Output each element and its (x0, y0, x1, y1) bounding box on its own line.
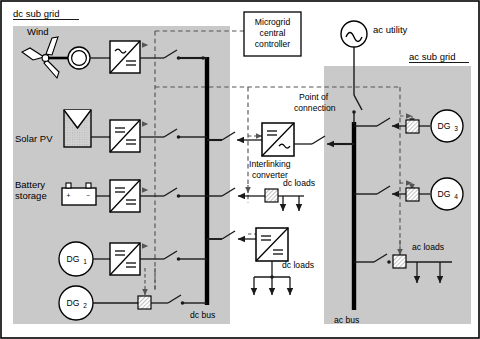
dg2-meter-box[interactable] (138, 296, 151, 309)
dg3-meter-box[interactable] (406, 120, 419, 133)
ac-loads-label: ac loads (412, 242, 444, 252)
battery-label-line1: Battery (15, 179, 45, 190)
dg2-label: DG (67, 298, 80, 308)
svg-text:dc sub grid: dc sub grid (13, 8, 59, 19)
ac-utility-source-icon (341, 21, 367, 47)
controller-line2: central (260, 28, 286, 38)
dg4-subscript: 4 (454, 193, 458, 200)
wind-generator-icon (68, 47, 90, 69)
wind-label: Wind (27, 26, 49, 37)
ac-loads-meter-box[interactable] (393, 255, 406, 268)
interlinking-label-line1: Interlinking (249, 159, 291, 169)
dg2-subscript: 2 (83, 302, 87, 309)
dg1-generator-icon: DG 1 (59, 242, 93, 276)
microgrid-diagram-canvas: dc sub grid ac sub grid (0, 0, 480, 339)
ac-utility-label: ac utility (373, 24, 408, 35)
ac-bus-label: ac bus (334, 315, 359, 325)
dg4-generator-icon: DG 4 (431, 178, 463, 210)
dg2-generator-icon: DG 2 (59, 286, 93, 320)
dg1-subscript: 1 (83, 258, 87, 265)
solar-pv-panel-icon (64, 110, 91, 147)
point-of-connection-line2: connection (294, 103, 336, 113)
battery-plus-terminal: + (67, 192, 71, 199)
battery-dc-dc-converter[interactable] (110, 180, 140, 212)
dg3-label: DG (438, 121, 451, 131)
svg-text:ac sub grid: ac sub grid (409, 51, 455, 62)
dg4-meter-box[interactable] (406, 188, 419, 201)
battery-label-line2: storage (15, 190, 47, 201)
dc-loads-upper-label: dc loads (283, 178, 315, 188)
controller-line3: controller (255, 39, 290, 49)
solar-dc-dc-converter[interactable] (110, 120, 140, 152)
controller-line1: Microgrid (255, 17, 291, 27)
wind-ac-dc-converter[interactable] (110, 41, 140, 73)
dg3-subscript: 3 (454, 125, 458, 132)
diagram-svg: dc sub grid ac sub grid (0, 0, 480, 339)
solar-label: Solar PV (15, 133, 53, 144)
dc-bus-label: dc bus (190, 310, 215, 320)
microgrid-central-controller[interactable]: Microgrid central controller (244, 12, 301, 56)
dg3-generator-icon: DG 3 (431, 110, 463, 142)
dc-loads-lower-label: dc loads (282, 260, 314, 270)
dg1-label: DG (67, 254, 80, 264)
interlinking-converter[interactable] (262, 123, 294, 156)
point-of-connection-line1: Point of (299, 92, 329, 102)
battery-minus-terminal: − (87, 192, 91, 199)
dc-loads-dc-dc-converter[interactable] (256, 228, 288, 261)
dg1-dc-dc-converter[interactable] (110, 243, 140, 275)
dg4-label: DG (438, 189, 451, 199)
dc-loads-upper-meter-box[interactable] (265, 189, 278, 202)
